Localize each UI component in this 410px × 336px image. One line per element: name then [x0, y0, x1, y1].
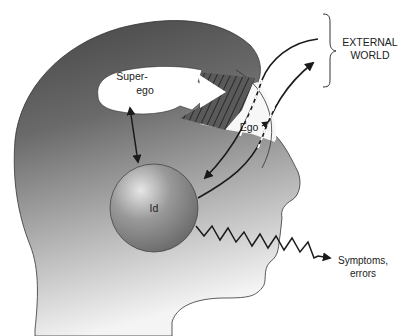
external-world-label-line2: WORLD — [350, 49, 390, 61]
external-world-label-line1: EXTERNAL — [342, 36, 398, 48]
symptoms-label-line2: errors — [350, 268, 376, 279]
symptoms-label-line1: Symptoms, — [338, 255, 388, 266]
id-label: Id — [150, 202, 159, 214]
diagram-canvas: Super- ego Id Ego EXTERNAL WORLD Symptom… — [0, 0, 410, 336]
superego-label-line2: ego — [136, 84, 154, 96]
external-world-brace — [323, 14, 336, 87]
superego-label-line1: Super- — [116, 70, 148, 82]
